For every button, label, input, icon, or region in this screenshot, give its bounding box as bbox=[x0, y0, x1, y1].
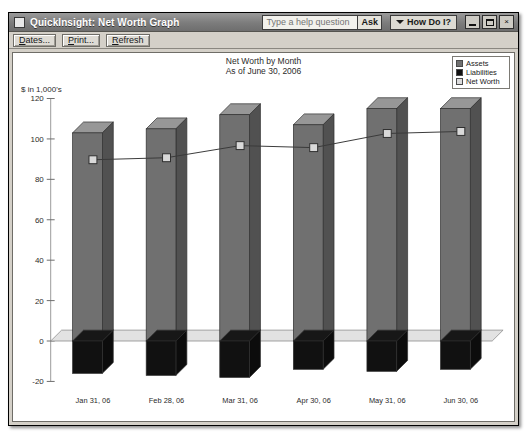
dates-button-label: ates... bbox=[26, 35, 51, 45]
window-title: QuickInsight: Net Worth Graph bbox=[30, 17, 179, 28]
ask-button[interactable]: Ask bbox=[358, 15, 382, 30]
chevron-down-icon bbox=[396, 20, 404, 24]
print-button-label: rint... bbox=[74, 35, 94, 45]
svg-text:120: 120 bbox=[31, 94, 45, 103]
print-button[interactable]: Print... bbox=[62, 34, 100, 47]
title-bar: QuickInsight: Net Worth Graph Ask How Do… bbox=[9, 13, 518, 32]
plot-area: 120100806040200-20 Jan 31, 06Feb 28, 06M… bbox=[13, 53, 514, 421]
window-buttons: × bbox=[465, 15, 514, 29]
help-question-input[interactable] bbox=[262, 15, 358, 30]
axis-group: 120100806040200-20 bbox=[31, 94, 55, 386]
svg-text:20: 20 bbox=[35, 297, 44, 306]
quickinsight-window: QuickInsight: Net Worth Graph Ask How Do… bbox=[8, 12, 519, 426]
minimize-icon bbox=[469, 24, 476, 26]
svg-text:0: 0 bbox=[39, 337, 44, 346]
close-icon: × bbox=[504, 18, 509, 26]
toolbar: Dates... Print... Refresh bbox=[9, 32, 518, 49]
svg-text:Mar 31, 06: Mar 31, 06 bbox=[222, 396, 257, 405]
minimize-button[interactable] bbox=[465, 15, 480, 29]
help-search-group: Ask bbox=[262, 15, 382, 30]
app-icon bbox=[14, 17, 25, 28]
how-do-i-label: How Do I? bbox=[407, 17, 451, 27]
x-axis-labels: Jan 31, 06Feb 28, 06Mar 31, 06Apr 30, 06… bbox=[76, 396, 479, 405]
dates-button[interactable]: Dates... bbox=[13, 34, 56, 47]
svg-text:Apr 30, 06: Apr 30, 06 bbox=[297, 396, 331, 405]
svg-text:60: 60 bbox=[35, 216, 44, 225]
svg-text:80: 80 bbox=[35, 175, 44, 184]
svg-text:-20: -20 bbox=[32, 377, 44, 386]
svg-text:Jun 30, 06: Jun 30, 06 bbox=[444, 396, 479, 405]
svg-text:40: 40 bbox=[35, 256, 44, 265]
how-do-i-button[interactable]: How Do I? bbox=[390, 15, 457, 30]
svg-text:Jan 31, 06: Jan 31, 06 bbox=[76, 396, 111, 405]
close-button[interactable]: × bbox=[499, 15, 514, 29]
svg-text:May 31, 06: May 31, 06 bbox=[369, 396, 406, 405]
refresh-button-label: efresh bbox=[119, 35, 144, 45]
chart-canvas: Net Worth by Month As of June 30, 2006 A… bbox=[12, 52, 515, 422]
maximize-button[interactable] bbox=[482, 15, 497, 29]
maximize-icon bbox=[486, 19, 494, 26]
refresh-button[interactable]: Refresh bbox=[106, 34, 150, 47]
svg-text:100: 100 bbox=[31, 135, 45, 144]
svg-text:Feb 28, 06: Feb 28, 06 bbox=[149, 396, 184, 405]
floor-plane bbox=[51, 330, 503, 341]
line-series-group bbox=[89, 128, 465, 164]
